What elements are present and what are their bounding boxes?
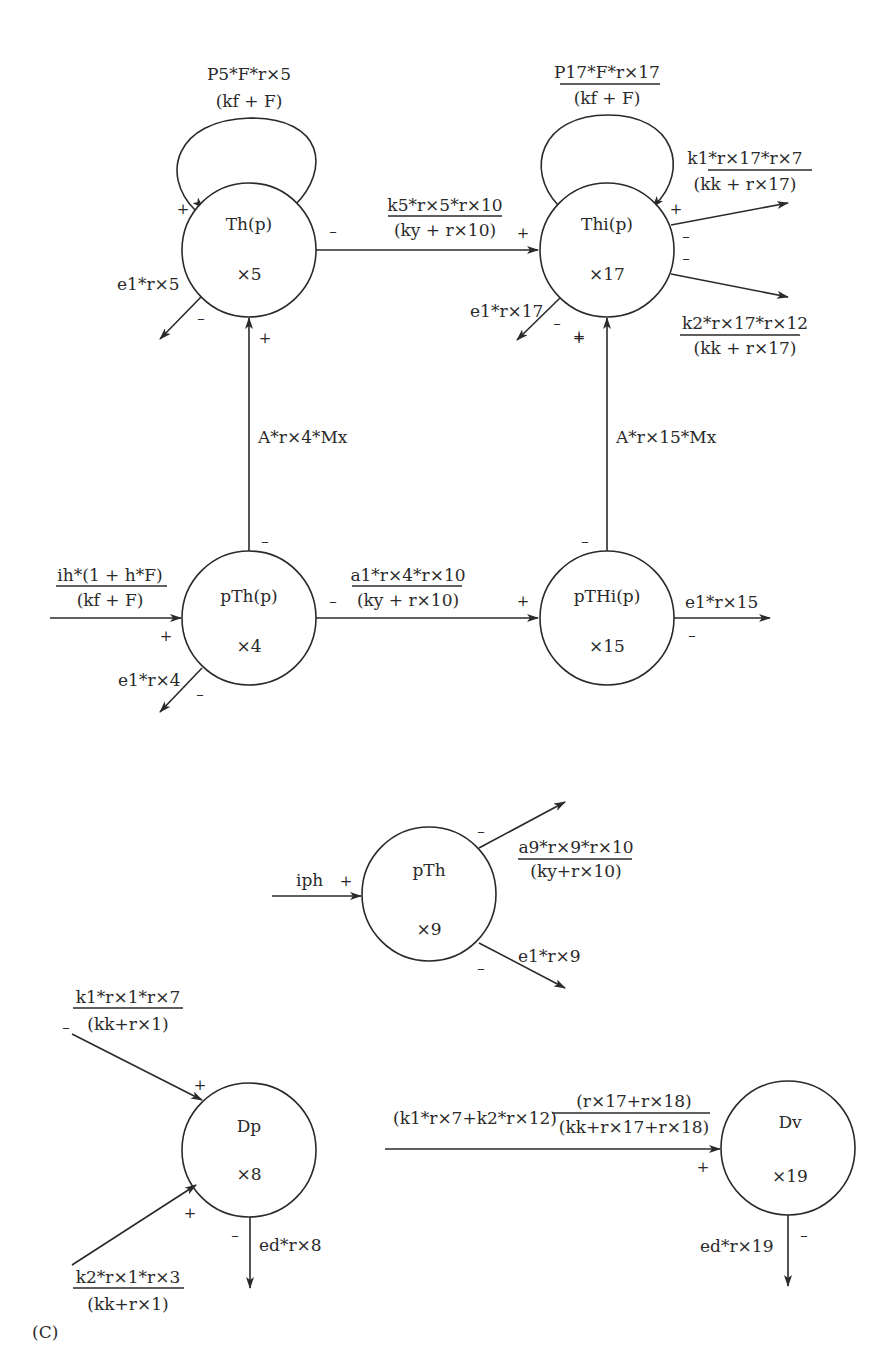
dv-var: ×19 [772,1166,808,1186]
th-to-thi-den: (ky + r×10) [394,220,496,240]
svg-text:–: – [682,249,690,267]
dp-in1-den: (kk+r×1) [87,1014,168,1034]
thi-out1-num: k1*r×17*r×7 [687,148,802,168]
pth-in-num: ih*(1 + h*F) [57,565,162,585]
pth2-circle [362,827,496,961]
dp-circle [182,1083,316,1217]
pth2-name: pTh [412,860,445,880]
pth2-var: ×9 [416,919,441,939]
thi-out2-arrow [671,274,788,297]
svg-text:+: + [160,627,173,645]
pth2-out-den: (ky+r×10) [530,861,621,881]
svg-text:+: + [697,1158,710,1176]
dp-in1-arrow [72,1034,202,1100]
pth2-out-num: a9*r×9*r×10 [518,837,633,857]
dv-in-den: (kk+r×17+r×18) [559,1117,709,1137]
dp-in1-num: k1*r×1*r×7 [76,987,181,1007]
dv-in-num: (r×17+r×18) [576,1091,692,1111]
svg-text:–: – [682,227,690,245]
thi-out2-num: k2*r×17*r×12 [682,313,808,333]
dp-decay-label: ed*r×8 [259,1235,322,1255]
th-var: ×5 [236,264,261,284]
svg-text:–: – [196,685,204,703]
svg-text:–: – [477,822,485,840]
svg-text:+: + [184,1204,197,1222]
thi-out1-den: (kk + r×17) [694,174,797,194]
th-circle [182,183,316,317]
thi-out1-arrow [671,203,788,225]
dv-in-prefix: (k1*r×7+k2*r×12) [393,1108,557,1128]
dv-circle [721,1081,855,1215]
thi-decay-label: e1*r×17 [470,301,543,321]
pth2-in-label: iph [296,870,323,890]
svg-text:–: – [231,1226,239,1244]
svg-text:+: + [194,1076,207,1094]
svg-text:+: + [517,592,530,610]
th-decay-label: e1*r×5 [117,274,180,294]
thi-out2-den: (kk + r×17) [694,338,797,358]
svg-text:–: – [688,626,696,644]
node-th: Th(p) ×5 [177,118,316,317]
svg-text:–: – [62,1018,70,1036]
th-name: Th(p) [226,214,272,234]
svg-text:–: – [553,314,561,332]
th-self-den: (kf + F) [216,91,283,111]
node-dv: Dv ×19 [721,1081,855,1215]
pth-in-den: (kf + F) [77,590,144,610]
svg-text:+: + [573,329,586,347]
svg-text:+: + [177,200,190,218]
thi-self-num: P17*F*r×17 [554,62,660,82]
dp-in2-den: (kk+r×1) [87,1294,168,1314]
pth-to-pthi-num: a1*r×4*r×10 [350,565,465,585]
node-pth: pTh(p) ×4 [182,551,316,685]
pthi-to-thi-label: A*r×15*Mx [615,427,717,447]
svg-text:–: – [329,222,337,240]
thi-var: ×17 [589,264,625,284]
figure-label: (C) [32,1322,58,1342]
pth-decay-label: e1*r×4 [118,670,181,690]
pthi-circle [540,551,674,685]
node-pth2: pTh ×9 [362,827,496,961]
svg-text:+: + [670,200,683,218]
pthi-name: pTHi(p) [574,586,641,606]
dp-var: ×8 [236,1164,261,1184]
th-to-thi-num: k5*r×5*r×10 [387,195,502,215]
thi-name: Thi(p) [581,214,633,234]
dp-name: Dp [237,1116,262,1136]
pth-circle [182,551,316,685]
svg-text:–: – [261,532,269,550]
dv-name: Dv [778,1112,802,1132]
node-thi: Thi(p) ×17 [540,115,674,317]
svg-text:+: + [517,224,530,242]
dp-in2-num: k2*r×1*r×3 [76,1267,181,1287]
node-dp: Dp ×8 [182,1083,316,1217]
node-pthi: pTHi(p) ×15 [540,551,674,685]
th-self-num: P5*F*r×5 [207,64,291,84]
pthi-var: ×15 [589,636,625,656]
svg-text:–: – [197,309,205,327]
pth2-decay-label: e1*r×9 [518,946,581,966]
thi-circle [540,183,674,317]
pth-name: pTh(p) [220,586,277,606]
svg-text:–: – [581,532,589,550]
pthi-decay-label: e1*r×15 [685,592,758,612]
flow-diagram: Th(p) ×5 P5*F*r×5 (kf + F) + e1*r×5 – – … [0,0,892,1359]
dp-in2-arrow [72,1185,196,1265]
svg-text:–: – [477,959,485,977]
pth-to-pthi-den: (ky + r×10) [357,590,459,610]
svg-text:+: + [259,329,272,347]
svg-text:–: – [800,1226,808,1244]
dv-decay-label: ed*r×19 [700,1236,773,1256]
svg-text:–: – [329,592,337,610]
pth-to-th-label: A*r×4*Mx [257,427,348,447]
thi-self-den: (kf + F) [574,88,641,108]
th-decay-arrow [160,297,201,339]
pth-var: ×4 [236,636,261,656]
svg-text:+: + [340,872,353,890]
